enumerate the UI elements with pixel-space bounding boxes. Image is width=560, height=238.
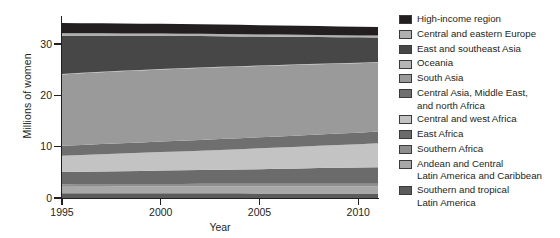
legend-item[interactable]: Central Asia, Middle East,and north Afri… — [399, 87, 557, 112]
legend-swatch-icon — [399, 74, 412, 83]
legend-item-label: High-income region — [417, 13, 557, 26]
x-tick-label: 2010 — [335, 206, 381, 218]
legend-swatch-icon — [399, 160, 412, 169]
x-tick-mark — [160, 199, 161, 205]
legend-swatch-icon — [399, 115, 412, 124]
x-tick-mark — [61, 199, 62, 205]
legend-item[interactable]: Central and west Africa — [399, 113, 557, 127]
y-tick-label: 20 — [12, 90, 52, 100]
x-tick-mark — [358, 199, 359, 205]
legend-item[interactable]: Southern and tropicalLatin America — [399, 184, 557, 209]
area-band — [62, 63, 378, 146]
legend-item[interactable]: Central and eastern Europe — [399, 28, 557, 42]
x-tick-label: 1995 — [39, 206, 85, 218]
legend-swatch-icon — [399, 15, 412, 24]
area-band — [62, 184, 378, 187]
x-tick-label: 2005 — [237, 206, 283, 218]
y-tick-label: 0 — [12, 193, 52, 203]
legend-swatch-icon — [399, 89, 412, 98]
legend-swatch-icon — [399, 130, 412, 139]
plot-area — [62, 16, 378, 198]
x-tick-mark — [259, 199, 260, 205]
legend-item-label: Andean and Central — [417, 158, 557, 171]
y-tick-mark — [54, 146, 62, 147]
legend-item[interactable]: East and southeast Asia — [399, 43, 557, 57]
legend-swatch-icon — [399, 145, 412, 154]
y-tick-mark — [54, 43, 62, 44]
legend-item-label: Southern and tropical — [417, 184, 557, 197]
legend-item-label: Oceania — [417, 57, 557, 70]
legend-item[interactable]: Oceania — [399, 57, 557, 71]
y-tick-label: 30 — [12, 39, 52, 49]
y-tick-mark — [54, 95, 62, 96]
legend-item[interactable]: Andean and CentralLatin America and Cari… — [399, 158, 557, 183]
legend-swatch-icon — [399, 186, 412, 195]
x-tick-label: 2000 — [138, 206, 184, 218]
legend-item-label: South Asia — [417, 72, 557, 85]
chart-legend: High-income regionCentral and eastern Eu… — [399, 13, 557, 210]
stacked-area-svg — [62, 16, 378, 198]
chart-figure: Millions of women 0102030 19952000200520… — [0, 0, 560, 238]
legend-item[interactable]: East Africa — [399, 128, 557, 142]
legend-item-label-cont: Latin America — [417, 197, 557, 210]
legend-item-label: Southern Africa — [417, 143, 557, 156]
x-axis-line — [61, 198, 379, 199]
legend-item[interactable]: South Asia — [399, 72, 557, 86]
x-axis-title: Year — [62, 221, 378, 233]
legend-item-label: East Africa — [417, 128, 557, 141]
legend-item-label: Central and eastern Europe — [417, 28, 557, 41]
legend-item-label: Central Asia, Middle East, — [417, 87, 557, 100]
legend-item-label-cont: and north Africa — [417, 100, 557, 113]
legend-item-label: Central and west Africa — [417, 113, 557, 126]
area-band — [62, 187, 378, 194]
legend-swatch-icon — [399, 45, 412, 54]
legend-item-label: East and southeast Asia — [417, 43, 557, 56]
legend-item[interactable]: High-income region — [399, 13, 557, 27]
y-tick-label: 10 — [12, 141, 52, 151]
legend-item[interactable]: Southern Africa — [399, 143, 557, 157]
legend-swatch-icon — [399, 30, 412, 39]
legend-swatch-icon — [399, 60, 412, 69]
legend-item-label-cont: Latin America and Caribbean — [417, 170, 557, 183]
